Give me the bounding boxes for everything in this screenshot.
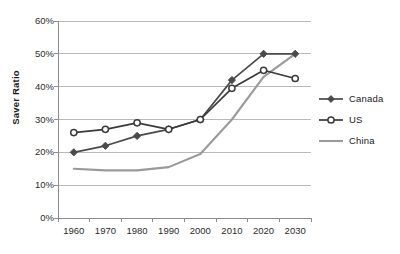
y-tick-30pct: 30%	[35, 115, 54, 125]
legend-diamond-icon	[328, 95, 335, 102]
marker-us-1960	[71, 130, 77, 136]
legend-label: US	[349, 114, 363, 125]
y-axis-label: Saver Ratio	[10, 53, 21, 143]
marker-us-2020	[261, 67, 267, 73]
legend-marker-none-icon	[318, 135, 344, 147]
legend-marker-diamond-icon	[318, 93, 344, 105]
x-tick-2000: 2000	[190, 226, 211, 236]
y-axis-tick-labels: 0%10%20%30%40%50%60%	[22, 0, 54, 254]
marker-us-1980	[134, 120, 140, 126]
legend-label: China	[349, 135, 375, 146]
marker-us-2000	[197, 116, 203, 122]
x-tick-1970: 1970	[95, 226, 116, 236]
marker-canada-1980	[134, 132, 141, 139]
marker-us-2030	[292, 75, 298, 81]
y-tick-50pct: 50%	[35, 49, 54, 59]
legend-item-canada[interactable]: Canada	[318, 88, 400, 109]
marker-canada-1970	[102, 142, 109, 149]
chart-legend: CanadaUSChina	[318, 88, 400, 151]
marker-us-1970	[102, 126, 108, 132]
legend-item-us[interactable]: US	[318, 109, 400, 130]
y-tick-60pct: 60%	[35, 16, 54, 26]
legend-circle-icon	[328, 116, 334, 122]
x-tick-2010: 2010	[221, 226, 242, 236]
x-tick-2030: 2030	[285, 226, 306, 236]
x-tick-1960: 1960	[63, 226, 84, 236]
y-tick-0pct: 0%	[40, 213, 54, 223]
y-tick-10pct: 10%	[35, 180, 54, 190]
y-tick-20pct: 20%	[35, 147, 54, 157]
x-tick-1990: 1990	[158, 226, 179, 236]
marker-us-2010	[229, 85, 235, 91]
legend-label: Canada	[349, 93, 383, 104]
marker-canada-1960	[70, 149, 77, 156]
x-tick-1980: 1980	[126, 226, 147, 236]
legend-item-china[interactable]: China	[318, 130, 400, 151]
marker-us-1990	[166, 126, 172, 132]
legend-marker-circle-open-icon	[318, 114, 344, 126]
saver-ratio-line-chart: Saver Ratio 0%10%20%30%40%50%60% 1960197…	[0, 0, 400, 254]
y-tick-40pct: 40%	[35, 82, 54, 92]
x-tick-2020: 2020	[253, 226, 274, 236]
